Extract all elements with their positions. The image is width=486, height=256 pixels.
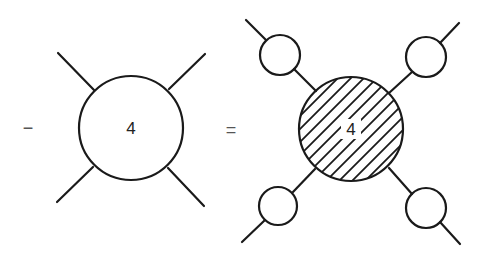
lhs-vertex: 4 bbox=[57, 53, 205, 206]
rhs-leg-inner-top-left bbox=[294, 69, 316, 91]
rhs-leg-outer-bottom-left bbox=[242, 220, 265, 242]
rhs-leg-inner-bottom-left bbox=[293, 169, 315, 192]
lhs-leg-bottom-left bbox=[57, 167, 93, 202]
rhs-leg-inner-bottom-right bbox=[389, 168, 412, 194]
lhs-leg-bottom-right bbox=[168, 168, 204, 206]
minus-sign: − bbox=[23, 118, 34, 138]
feynman-diagram-equation: − 4 = bbox=[0, 0, 486, 256]
rhs-vertex-label: 4 bbox=[346, 120, 355, 139]
lhs-leg-top-right bbox=[169, 54, 205, 89]
rhs-leg-outer-top-right bbox=[440, 23, 459, 43]
equals-sign: = bbox=[226, 120, 237, 140]
hatch-pattern bbox=[280, 30, 438, 196]
rhs-vertex: 4 bbox=[242, 20, 460, 244]
propagator-bubble-bottom-right bbox=[406, 188, 446, 228]
rhs-leg-outer-top-left bbox=[246, 20, 266, 40]
propagator-bubble-top-left bbox=[260, 35, 300, 75]
propagator-bubble-top-right bbox=[406, 37, 446, 77]
rhs-leg-outer-bottom-right bbox=[440, 222, 460, 244]
rhs-leg-inner-top-right bbox=[389, 72, 412, 93]
lhs-vertex-label: 4 bbox=[126, 119, 135, 138]
propagator-bubble-bottom-left bbox=[259, 187, 297, 225]
lhs-leg-top-left bbox=[58, 53, 94, 90]
